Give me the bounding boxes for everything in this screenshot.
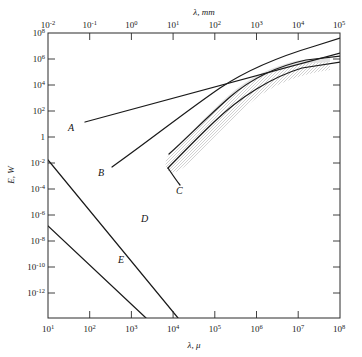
- top-axis-title: λ, mm: [192, 7, 215, 17]
- y-tick-label: 1: [41, 132, 46, 142]
- chart-figure: ​ λ, mm 10-2 10-1 100 101 102 103 104 10…: [0, 0, 362, 357]
- curve-label-D: D: [140, 213, 149, 224]
- curve-label-C: C: [176, 185, 183, 196]
- curve-label-B: B: [98, 167, 104, 178]
- bottom-axis-title: λ, μ: [187, 340, 201, 350]
- svg-text:1: 1: [41, 132, 46, 142]
- curve-label-E: E: [117, 254, 124, 265]
- y-axis-title: E, W: [6, 165, 16, 185]
- curve-label-A: A: [67, 122, 75, 133]
- figure-background: [0, 0, 362, 357]
